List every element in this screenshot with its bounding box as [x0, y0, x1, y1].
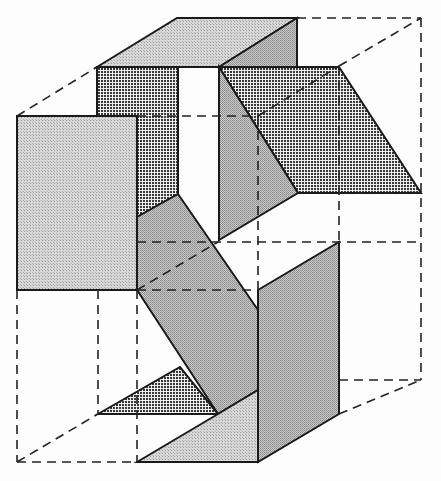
left-front-panel-panel: [17, 116, 137, 290]
bottom-right-dashed-diagonal: [339, 380, 421, 414]
top-right-dashed-diagonal: [339, 18, 421, 66]
bottom-dashed-diagonal: [17, 414, 98, 462]
panels: [17, 18, 421, 462]
right-lower-panel-panel: [258, 242, 339, 462]
cube-diagram: [0, 0, 441, 481]
top-left-dashed-diagonal: [17, 67, 97, 116]
